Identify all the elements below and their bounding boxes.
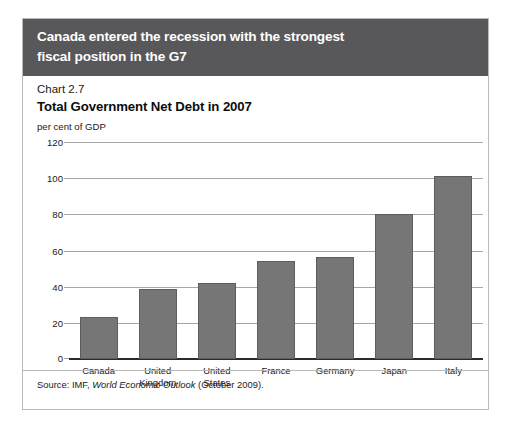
bar — [257, 261, 295, 359]
bar — [198, 283, 236, 359]
bar — [139, 289, 177, 359]
figure-frame: Canada entered the recession with the st… — [22, 18, 489, 410]
source-prefix: Source: IMF, — [37, 379, 92, 390]
source-publication: World Economic Outlook — [92, 379, 195, 390]
bar-group: United Kingdom — [139, 142, 177, 359]
chart-title: Total Government Net Debt in 2007 — [37, 98, 480, 116]
headline-banner: Canada entered the recession with the st… — [23, 19, 488, 76]
y-axis-tick-label: 40 — [52, 281, 63, 292]
bar-series: CanadaUnited KingdomUnited StatesFranceG… — [69, 142, 483, 359]
y-axis-tick-label: 20 — [52, 317, 63, 328]
bar-group: Italy — [434, 142, 472, 359]
y-axis-tick-label: 80 — [52, 209, 63, 220]
plot-area: 020406080100120 CanadaUnited KingdomUnit… — [69, 142, 483, 359]
chart-number: Chart 2.7 — [37, 82, 480, 97]
y-axis-tick-label: 100 — [47, 173, 63, 184]
bar-group: United States — [198, 142, 236, 359]
screenshot-root: Canada entered the recession with the st… — [0, 0, 511, 430]
bar-group: France — [257, 142, 295, 359]
bar-group: Canada — [80, 142, 118, 359]
bar — [434, 176, 472, 359]
y-axis-tick-label: 120 — [47, 137, 63, 148]
bar-group: Japan — [375, 142, 413, 359]
y-axis-unit-label: per cent of GDP — [37, 120, 480, 133]
y-axis-tick-label: 60 — [52, 245, 63, 256]
source-note: Source: IMF, World Economic Outlook (Oct… — [37, 378, 264, 391]
headline-text: Canada entered the recession with the st… — [37, 27, 478, 67]
bar — [316, 257, 354, 359]
source-divider — [23, 370, 488, 371]
bar — [375, 214, 413, 359]
source-suffix: (October 2009). — [195, 379, 263, 390]
bar-group: Germany — [316, 142, 354, 359]
chart-header: Chart 2.7 Total Government Net Debt in 2… — [37, 82, 480, 133]
bar — [80, 317, 118, 359]
y-axis-tick-label: 0 — [58, 353, 63, 364]
